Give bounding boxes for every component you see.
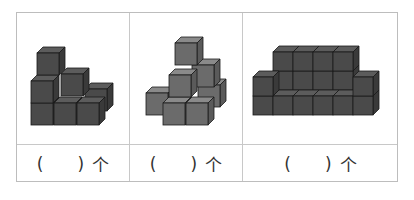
cube-stack-1-figure (17, 13, 129, 144)
close-paren: ) (325, 154, 332, 174)
open-paren: ( (37, 154, 44, 174)
close-paren: ) (191, 154, 198, 174)
unit-label: 个 (340, 151, 357, 176)
answer-cell-3[interactable]: ( ) 个 (243, 145, 398, 182)
counting-table: ( ) 个 ( ) 个 (16, 12, 398, 182)
open-paren: ( (150, 154, 157, 174)
answer-cell-2[interactable]: ( ) 个 (130, 145, 242, 182)
answer-cell-1[interactable]: ( ) 个 (17, 145, 129, 182)
open-paren: ( (284, 154, 291, 174)
unit-label: 个 (205, 151, 222, 176)
figure-cell-3 (243, 13, 398, 144)
cube-stack-2-figure (130, 13, 242, 144)
close-paren: ) (78, 154, 85, 174)
figure-cell-2 (130, 13, 242, 144)
unit-label: 个 (92, 151, 109, 176)
figure-cell-1 (17, 13, 129, 144)
cube-stack-3-figure (243, 13, 398, 144)
